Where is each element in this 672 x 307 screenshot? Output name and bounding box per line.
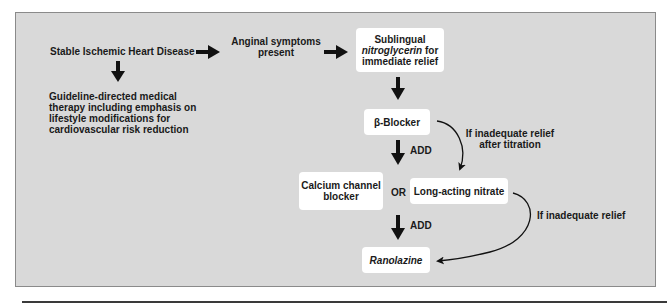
arrows-layer xyxy=(0,0,672,307)
arrow-right-sihd-to-angina xyxy=(196,45,220,59)
arrow-curve-inadequate-relief xyxy=(438,193,530,261)
arrow-curve-titration xyxy=(437,121,463,169)
arrow-down-add-1 xyxy=(391,140,405,165)
arrow-down-add-2 xyxy=(391,215,405,240)
arrow-down-ntg-to-beta-blocker xyxy=(391,77,405,100)
arrow-right-angina-to-ntg xyxy=(324,45,348,59)
arrow-down-sihd-to-gdmt xyxy=(111,61,125,82)
